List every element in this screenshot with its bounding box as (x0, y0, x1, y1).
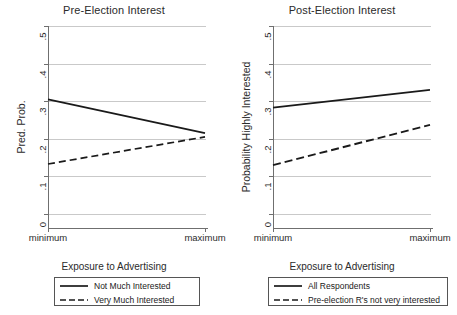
legend-item-all-respondents: All Respondents (269, 279, 447, 293)
data-lines-right (273, 26, 431, 214)
x-axis-title-right: Exposure to Advertising (228, 261, 456, 272)
gridline-y-0 (273, 214, 431, 215)
y-axis-title-left-wrap: Pred. Prob. (14, 26, 28, 228)
legend-label-very-much-interested: Very Much Interested (94, 295, 174, 305)
legend-key-dashed-icon (273, 295, 303, 305)
series-line-not-much-interested (48, 99, 205, 133)
y-tick-label-0.5: .5 (37, 26, 48, 48)
legend-item-pre-election-not-very-interested: Pre-election R's not very interested (269, 293, 447, 307)
y-tick-label-0.3: .3 (37, 101, 48, 123)
y-tick-label-0.2: .2 (262, 138, 273, 160)
y-tick-label-0.5: .5 (262, 26, 273, 48)
panel-pre-election-interest: Pre-Election Interest .5 .4 .3 .2 .1 0 (0, 0, 228, 315)
figure-two-panel-line-chart: Pre-Election Interest .5 .4 .3 .2 .1 0 (0, 0, 457, 315)
panel-post-election-interest: Post-Election Interest .5 .4 .3 .2 .1 0 (228, 0, 456, 315)
data-lines-left (48, 26, 206, 214)
x-tick-label-maximum: maximum (409, 232, 450, 243)
series-line-all-respondents (273, 90, 430, 108)
x-axis-line-left (48, 228, 208, 229)
gridline-y-0 (48, 214, 206, 215)
y-tick-label-0.3: .3 (262, 101, 273, 123)
panel-title-left: Pre-Election Interest (0, 4, 228, 16)
plot-area-left: .5 .4 .3 .2 .1 0 Pred. Prob. minimum max… (48, 26, 206, 214)
y-tick-label-0.2: .2 (37, 138, 48, 160)
legend-key-solid-icon (273, 281, 303, 291)
plot-area-right: .5 .4 .3 .2 .1 0 Probability Highly Inte… (273, 26, 431, 214)
x-tick-label-minimum: minimum (29, 232, 68, 243)
legend-label-pre-election-not-very-interested: Pre-election R's not very interested (308, 295, 440, 305)
y-tick-label-0.4: .4 (262, 63, 273, 85)
y-axis-title-left: Pred. Prob. (15, 100, 27, 153)
x-axis-line-right (273, 228, 433, 229)
series-line-pre-election-not-very-interested (273, 125, 430, 165)
panel-title-right: Post-Election Interest (228, 4, 456, 16)
legend-key-solid-icon (59, 281, 89, 291)
legend-key-dashed-icon (59, 295, 89, 305)
x-tick-label-minimum: minimum (254, 232, 293, 243)
y-tick-label-0.4: .4 (37, 63, 48, 85)
y-axis-title-right-wrap: Probability Highly Interested (239, 26, 253, 228)
legend-item-very-much-interested: Very Much Interested (55, 293, 199, 307)
x-axis-title-left: Exposure to Advertising (0, 261, 228, 272)
y-axis-title-right: Probability Highly Interested (240, 62, 252, 193)
legend-label-not-much-interested: Not Much Interested (94, 281, 171, 291)
y-tick-label-0.1: .1 (37, 176, 48, 198)
x-tick-label-maximum: maximum (184, 232, 225, 243)
y-tick-label-0.1: .1 (262, 176, 273, 198)
series-line-very-much-interested (48, 137, 205, 164)
legend-label-all-respondents: All Respondents (308, 281, 370, 291)
legend-right: All Respondents Pre-election R's not ver… (268, 277, 448, 306)
legend-left: Not Much Interested Very Much Interested (54, 277, 200, 306)
legend-item-not-much-interested: Not Much Interested (55, 279, 199, 293)
